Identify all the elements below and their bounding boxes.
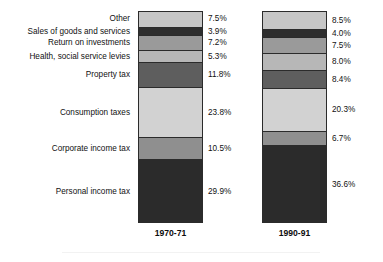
axis-caption-1970-71: 1970-71 (138, 228, 203, 238)
value-label: 23.8% (208, 108, 231, 117)
bar-segment[interactable] (263, 71, 326, 89)
category-label: Health, social service levies (29, 52, 130, 61)
bar-segment[interactable] (139, 36, 202, 51)
axis-caption-1990-91: 1990-91 (262, 228, 327, 238)
value-label: 6.7% (332, 134, 351, 143)
bar-segment[interactable] (139, 12, 202, 28)
bar-segment[interactable] (139, 160, 202, 223)
value-label: 4.0% (332, 29, 351, 38)
value-label: 7.5% (208, 14, 227, 23)
value-label: 8.4% (332, 75, 351, 84)
category-label: Personal income tax (56, 187, 130, 196)
bar-segment[interactable] (139, 51, 202, 62)
baseline-rule (62, 252, 320, 253)
bar-segment[interactable] (263, 54, 326, 71)
category-label: Property tax (86, 70, 130, 79)
value-label: 20.3% (332, 105, 355, 114)
category-label: Consumption taxes (60, 108, 130, 117)
bar-segment[interactable] (263, 146, 326, 223)
value-label: 7.2% (208, 38, 227, 47)
value-label: 3.9% (208, 27, 227, 36)
category-label: Sales of goods and services (28, 27, 130, 36)
bar-segment[interactable] (263, 30, 326, 38)
value-label: 10.5% (208, 144, 231, 153)
bar-segment[interactable] (139, 28, 202, 36)
value-label: 36.6% (332, 180, 355, 189)
value-label: 29.9% (208, 187, 231, 196)
bar-segment[interactable] (139, 138, 202, 160)
category-label-column: OtherSales of goods and servicesReturn o… (0, 11, 134, 223)
value-label: 8.5% (332, 16, 351, 25)
bar-segment[interactable] (263, 38, 326, 54)
bar-segment[interactable] (263, 89, 326, 132)
stacked-bar-1990-91[interactable] (262, 11, 327, 223)
value-label: 11.8% (208, 70, 231, 79)
category-label: Return on investments (48, 38, 130, 47)
category-label: Corporate income tax (52, 144, 130, 153)
value-label: 8.0% (332, 57, 351, 66)
bar-segment[interactable] (139, 63, 202, 88)
stacked-bar-1970-71[interactable] (138, 11, 203, 223)
value-label: 7.5% (332, 41, 351, 50)
value-label-column-1990-91: 8.5%4.0%7.5%8.0%8.4%20.3%6.7%36.6% (332, 11, 380, 223)
bar-segment[interactable] (263, 12, 326, 30)
category-label: Other (110, 14, 130, 23)
bar-segment[interactable] (263, 132, 326, 146)
bar-segment[interactable] (139, 88, 202, 139)
stacked-bar-chart: OtherSales of goods and servicesReturn o… (0, 0, 383, 262)
value-label-column-1970-71: 7.5%3.9%7.2%5.3%11.8%23.8%10.5%29.9% (208, 11, 256, 223)
value-label: 5.3% (208, 52, 227, 61)
